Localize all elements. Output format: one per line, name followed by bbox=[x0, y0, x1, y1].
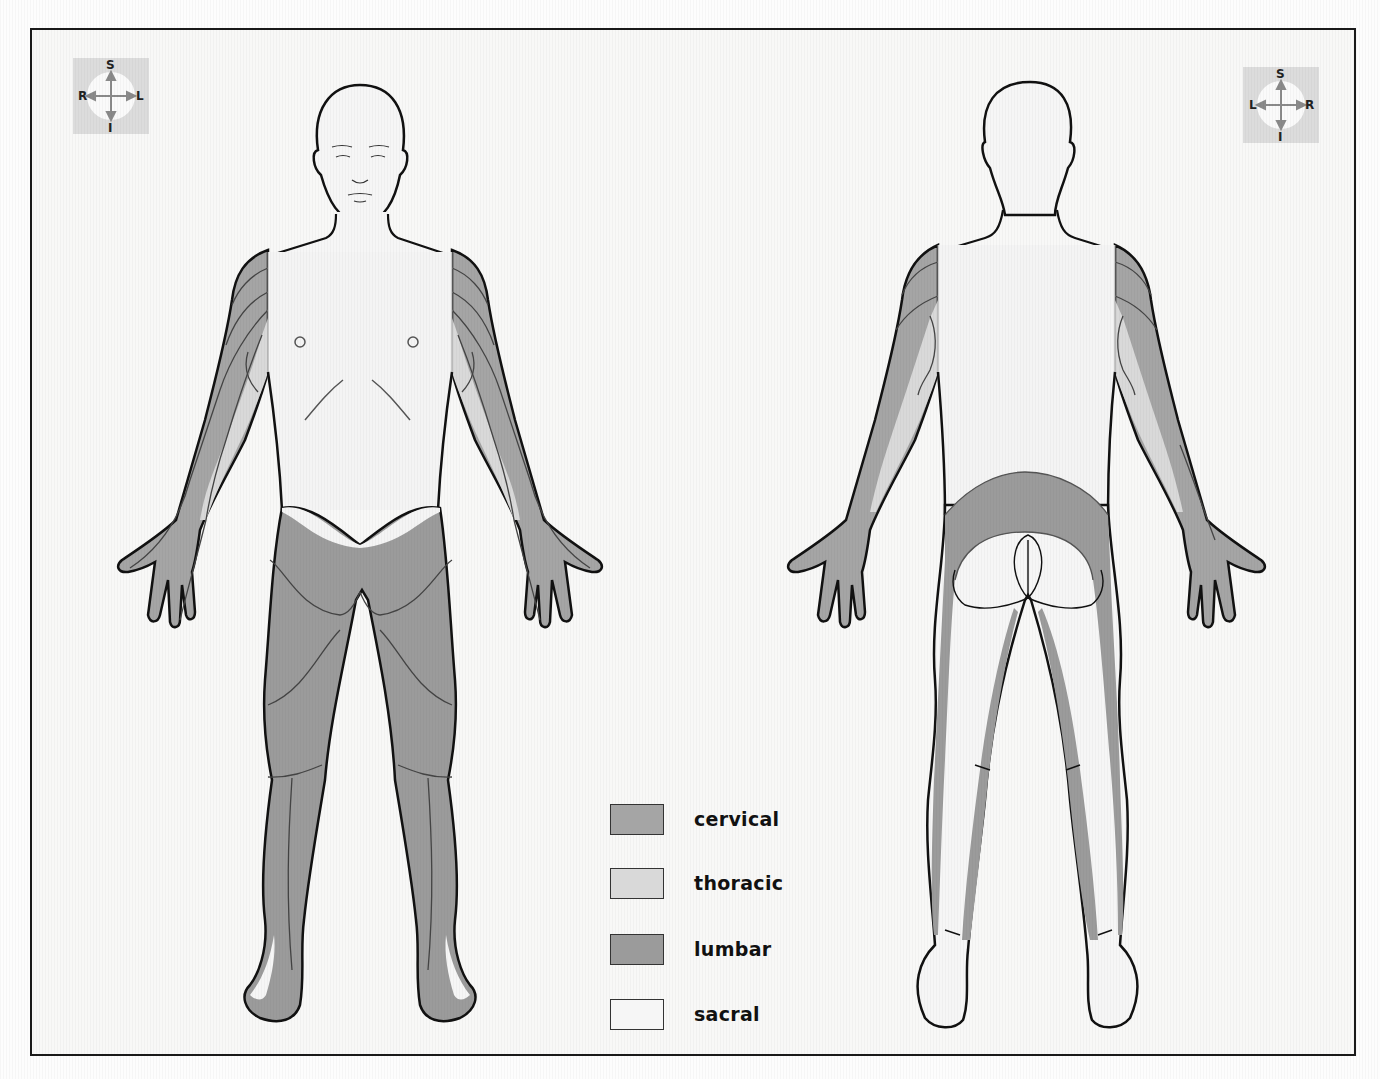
anterior-torso bbox=[268, 252, 452, 510]
legend-label: cervical bbox=[694, 808, 779, 830]
legend-label: sacral bbox=[694, 1003, 760, 1025]
legend-swatch-sacral bbox=[610, 999, 664, 1030]
legend-swatch-thoracic bbox=[610, 868, 664, 899]
legend-label: thoracic bbox=[694, 872, 783, 894]
legend-item-thoracic: thoracic bbox=[610, 868, 850, 902]
legend-item-sacral: sacral bbox=[610, 999, 850, 1033]
posterior-figure bbox=[788, 82, 1265, 1027]
posterior-head bbox=[983, 82, 1075, 215]
legend-label: lumbar bbox=[694, 938, 771, 960]
body-figures bbox=[0, 0, 1380, 1079]
posterior-arm-right bbox=[1115, 245, 1265, 627]
legend-item-lumbar: lumbar bbox=[610, 934, 850, 968]
legend-item-cervical: cervical bbox=[610, 804, 850, 838]
anterior-head bbox=[314, 85, 408, 226]
posterior-arm-left bbox=[788, 245, 938, 627]
legend-swatch-cervical bbox=[610, 804, 664, 835]
legend-swatch-lumbar bbox=[610, 934, 664, 965]
anterior-figure bbox=[118, 85, 602, 1021]
anterior-legs bbox=[245, 507, 476, 1021]
